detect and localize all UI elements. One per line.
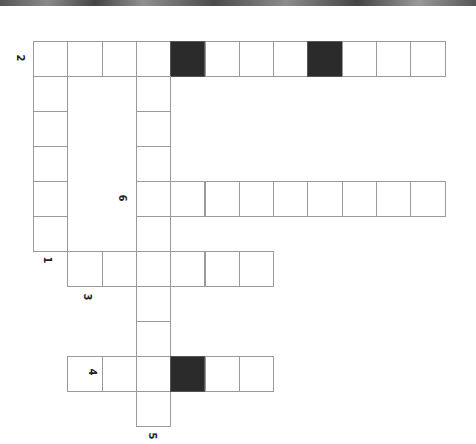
crossword-cell[interactable] (136, 391, 171, 427)
crossword-cell[interactable] (239, 41, 274, 77)
crossword-cell[interactable] (239, 181, 274, 217)
crossword-cell[interactable] (170, 251, 205, 287)
crossword-cell[interactable] (342, 181, 377, 217)
crossword-cell[interactable] (307, 181, 342, 217)
crossword-cell[interactable] (136, 146, 171, 182)
crossword-cell[interactable] (33, 111, 68, 147)
crossword-cell[interactable] (102, 356, 137, 392)
crossword-cell[interactable] (33, 76, 68, 112)
black-cell (307, 41, 342, 77)
crossword-cell[interactable] (136, 41, 171, 77)
crossword-cell[interactable] (67, 41, 102, 77)
crossword-cell[interactable] (136, 321, 171, 357)
crossword-cell[interactable] (205, 181, 240, 217)
crossword-cell[interactable] (33, 216, 68, 252)
crossword-cell[interactable] (136, 286, 171, 322)
clue-number-label: 3 (82, 292, 92, 302)
crossword-cell[interactable] (136, 216, 171, 252)
crossword-cell[interactable] (205, 41, 240, 77)
clue-number-label: 6 (117, 193, 127, 203)
clue-number-label: 5 (147, 431, 157, 441)
black-cell (170, 356, 205, 392)
crossword-cell[interactable] (102, 251, 137, 287)
crossword-cell[interactable] (205, 356, 240, 392)
crossword-cell[interactable] (239, 251, 274, 287)
crossword-cell[interactable] (136, 251, 171, 287)
crossword-cell[interactable] (67, 251, 102, 287)
clue-number-label: 1 (42, 255, 52, 265)
crossword-cell[interactable] (376, 41, 411, 77)
crossword-cell[interactable] (33, 181, 68, 217)
clue-number-label: 2 (15, 53, 25, 63)
black-cell (170, 41, 205, 77)
crossword-cell[interactable] (136, 111, 171, 147)
crossword-cell[interactable] (342, 41, 377, 77)
crossword-cell[interactable] (376, 181, 411, 217)
crossword-cell[interactable] (410, 181, 445, 217)
crossword-cell[interactable] (136, 356, 171, 392)
crossword-grid: 261345 (0, 0, 476, 444)
crossword-cell[interactable] (170, 181, 205, 217)
crossword-cell[interactable] (33, 146, 68, 182)
crossword-cell[interactable] (33, 41, 68, 77)
crossword-cell[interactable] (239, 356, 274, 392)
crossword-cell[interactable] (273, 41, 308, 77)
clue-number-label: 4 (87, 367, 97, 377)
crossword-cell[interactable] (136, 76, 171, 112)
crossword-cell[interactable] (273, 181, 308, 217)
crossword-cell[interactable] (102, 41, 137, 77)
crossword-cell[interactable] (136, 181, 171, 217)
crossword-cell[interactable] (205, 251, 240, 287)
crossword-cell[interactable] (410, 41, 445, 77)
